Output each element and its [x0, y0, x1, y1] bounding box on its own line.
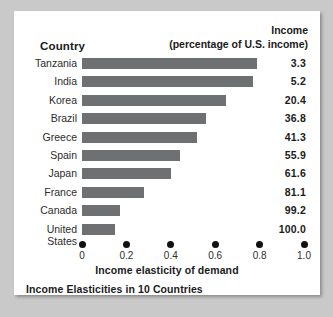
- chart-row: Japan61.6: [14, 165, 320, 183]
- bar: [82, 95, 226, 106]
- column-header-income: Income (percentage of U.S. income): [169, 23, 308, 51]
- tick-dot-icon: [212, 241, 219, 248]
- bar: [82, 58, 257, 69]
- tick-label: 0.4: [153, 250, 189, 261]
- tick-label: 0.8: [242, 250, 278, 261]
- row-country-label: Spain: [14, 149, 77, 161]
- column-header-income-line1: Income: [169, 23, 308, 37]
- row-country-label: Tanzania: [14, 57, 77, 69]
- bar: [82, 205, 120, 216]
- bar: [82, 76, 253, 87]
- row-country-label: India: [14, 75, 77, 87]
- row-income-value: 5.2: [250, 75, 306, 87]
- x-axis-title: Income elasticity of demand: [14, 264, 320, 276]
- chart-card: Country Income (percentage of U.S. incom…: [14, 11, 320, 295]
- row-country-label: Greece: [14, 131, 77, 143]
- row-income-value: 41.3: [250, 131, 306, 143]
- tick-label: 0.6: [197, 250, 233, 261]
- tick-dot-icon: [167, 241, 174, 248]
- chart-row: India5.2: [14, 73, 320, 91]
- bar: [82, 113, 206, 124]
- tick-dot-icon: [79, 241, 86, 248]
- row-country-label: United States: [14, 223, 77, 247]
- row-income-value: 55.9: [250, 149, 306, 161]
- row-income-value: 36.8: [250, 112, 306, 124]
- tick-label: 0: [64, 250, 100, 261]
- chart-row: United States100.0: [14, 221, 320, 239]
- chart-caption: Income Elasticities in 10 Countries: [26, 283, 203, 295]
- row-country-label: Brazil: [14, 112, 77, 124]
- row-country-label: Japan: [14, 167, 77, 179]
- row-income-value: 81.1: [250, 186, 306, 198]
- bar: [82, 187, 144, 198]
- bar: [82, 132, 197, 143]
- row-income-value: 20.4: [250, 94, 306, 106]
- column-header-income-line2: (percentage of U.S. income): [169, 37, 308, 51]
- tick-label: 1.0: [286, 250, 322, 261]
- row-income-value: 61.6: [250, 167, 306, 179]
- bar: [82, 150, 180, 161]
- row-income-value: 100.0: [250, 223, 306, 235]
- column-header-country: Country: [40, 40, 85, 52]
- row-country-label: Korea: [14, 94, 77, 106]
- bar: [82, 168, 171, 179]
- chart-row: Tanzania3.3: [14, 55, 320, 73]
- tick-dot-icon: [301, 241, 308, 248]
- bar: [82, 224, 115, 235]
- chart-row: Korea20.4: [14, 92, 320, 110]
- row-income-value: 3.3: [250, 57, 306, 69]
- row-income-value: 99.2: [250, 204, 306, 216]
- chart-row: Brazil36.8: [14, 110, 320, 128]
- chart-row: France81.1: [14, 184, 320, 202]
- tick-dot-icon: [123, 241, 130, 248]
- chart-row: Greece41.3: [14, 129, 320, 147]
- row-country-label: Canada: [14, 204, 77, 216]
- figure-container: Country Income (percentage of U.S. incom…: [0, 0, 333, 317]
- row-country-label: France: [14, 186, 77, 198]
- tick-dot-icon: [256, 241, 263, 248]
- tick-label: 0.2: [108, 250, 144, 261]
- chart-row: Canada99.2: [14, 202, 320, 220]
- chart-rows: Tanzania3.3India5.2Korea20.4Brazil36.8Gr…: [14, 55, 320, 239]
- chart-row: Spain55.9: [14, 147, 320, 165]
